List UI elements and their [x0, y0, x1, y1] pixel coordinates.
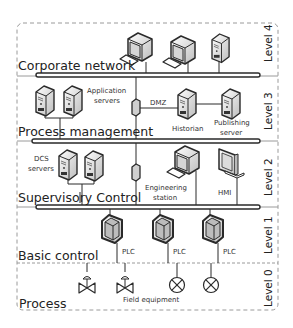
indicator-lamp-2: [204, 278, 219, 293]
indicator-lamp-1: [170, 278, 185, 293]
label-publishing-line1: Publishing: [214, 119, 250, 127]
level-label-3: Level 3: [262, 92, 274, 130]
level-label-2: Level 2: [262, 158, 274, 196]
supervisory-firewall: [132, 164, 140, 181]
engineering-station: [167, 146, 199, 178]
valve-1: [79, 277, 95, 294]
bus-supervisory: [36, 205, 260, 209]
corporate-workstation-2: [163, 36, 195, 68]
historian-server: [178, 89, 196, 119]
application-server-1: [36, 86, 54, 116]
label-dmz: DMZ: [150, 99, 166, 107]
dcs-server-1: [59, 150, 77, 180]
corporate-server: [212, 34, 229, 63]
ics-network-diagram: Corporate network Level 4 Application se…: [0, 0, 293, 328]
label-field-equipment: Field equipment: [123, 296, 180, 304]
zone-label-process-management: Process management: [18, 124, 153, 139]
bus-process-management: [32, 139, 260, 143]
application-server-2: [64, 86, 82, 116]
dcs-server-2: [85, 151, 103, 181]
plc-3: [203, 215, 223, 243]
level-label-1: Level 1: [262, 216, 274, 254]
label-hmi: HMI: [218, 189, 231, 197]
label-dcs-line1: DCS: [34, 155, 49, 163]
hmi-terminal: [219, 149, 244, 178]
level-label-4: Level 4: [262, 24, 274, 62]
label-plc-2: PLC: [173, 248, 186, 256]
level-label-0: Level 0: [262, 269, 274, 307]
zone-label-corporate-network: Corporate network: [18, 58, 136, 73]
label-publishing-line2: server: [220, 129, 242, 137]
zone-label-basic-control: Basic control: [18, 248, 98, 263]
label-plc-3: PLC: [223, 248, 236, 256]
label-engineering-line2: station: [153, 194, 177, 202]
publishing-server: [222, 89, 240, 119]
label-application-servers-line2: servers: [94, 97, 120, 105]
zone-label-process: Process: [19, 296, 66, 311]
label-dcs-line2: servers: [28, 165, 54, 173]
label-plc-1: PLC: [122, 248, 135, 256]
valve-2: [117, 277, 133, 294]
label-historian: Historian: [172, 125, 203, 133]
plc-1: [102, 215, 122, 243]
bus-corporate: [36, 73, 260, 77]
label-application-servers-line1: Application: [87, 87, 126, 95]
dmz-firewall: [132, 99, 140, 116]
plc-2: [153, 215, 173, 243]
label-engineering-line1: Engineering: [145, 184, 187, 192]
